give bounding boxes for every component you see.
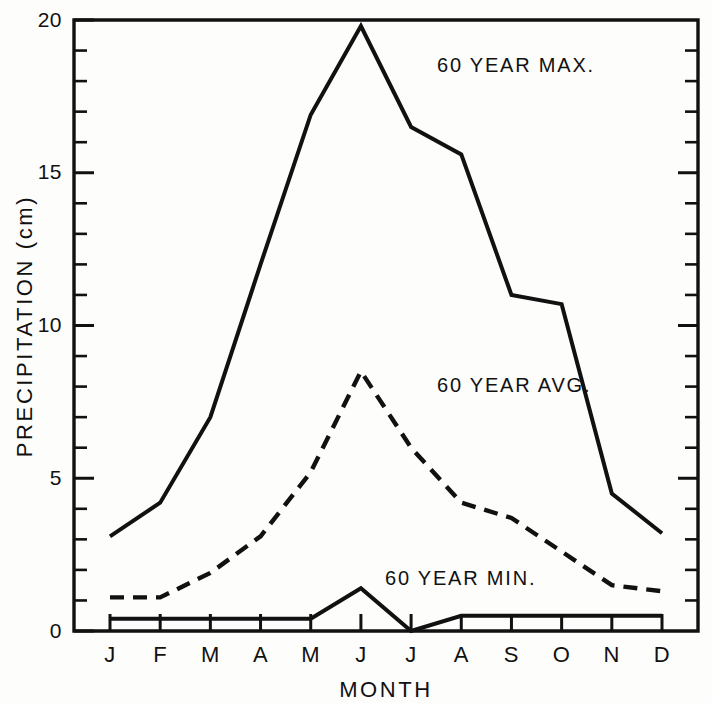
- y-tick-label-20: 20: [38, 8, 62, 31]
- precipitation-chart: 05101520 JFMAMJJASOND 60 YEAR MAX.60 YEA…: [0, 0, 712, 703]
- plot-border: [74, 20, 698, 631]
- data-series-group: [110, 26, 662, 631]
- axis-frame: [74, 20, 698, 631]
- series-line-1: [110, 371, 662, 597]
- x-tick-label-8: S: [504, 642, 519, 667]
- series-line-2: [110, 588, 662, 631]
- series-annotation-1: 60 YEAR AVG.: [437, 374, 591, 396]
- x-tick-label-7: A: [454, 642, 469, 667]
- series-line-0: [110, 26, 662, 536]
- series-annotation-group: 60 YEAR MAX.60 YEAR AVG.60 YEAR MIN.: [385, 54, 595, 589]
- x-tick-label-9: O: [553, 642, 571, 667]
- x-axis-title: MONTH: [339, 677, 433, 702]
- x-tick-label-1: F: [153, 642, 167, 667]
- x-tick-label-10: N: [604, 642, 620, 667]
- y-tick-label-15: 15: [38, 160, 62, 183]
- y-tick-label-5: 5: [50, 466, 62, 489]
- x-tick-label-2: M: [201, 642, 220, 667]
- series-annotation-0: 60 YEAR MAX.: [437, 54, 595, 76]
- chart-canvas: 05101520 JFMAMJJASOND 60 YEAR MAX.60 YEA…: [0, 0, 712, 703]
- y-axis-ticks: [74, 20, 698, 631]
- series-annotation-2: 60 YEAR MIN.: [385, 567, 536, 589]
- x-tick-label-4: M: [301, 642, 320, 667]
- y-tick-label-10: 10: [38, 313, 62, 336]
- x-tick-label-0: J: [104, 642, 116, 667]
- y-axis-tick-labels: 05101520: [38, 8, 62, 642]
- x-axis-tick-labels: JFMAMJJASOND: [104, 642, 670, 667]
- x-tick-label-11: D: [654, 642, 670, 667]
- y-tick-label-0: 0: [50, 619, 62, 642]
- x-tick-label-6: J: [405, 642, 417, 667]
- y-axis-title: PRECIPITATION (cm): [12, 195, 37, 457]
- x-tick-label-5: J: [355, 642, 367, 667]
- x-tick-label-3: A: [253, 642, 268, 667]
